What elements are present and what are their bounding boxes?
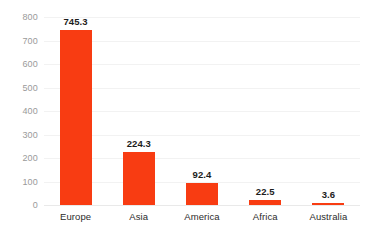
- bar: [123, 152, 155, 205]
- y-axis-tick-label: 300: [8, 131, 38, 140]
- y-axis-tick-label: 500: [8, 84, 38, 93]
- x-axis-category-label: America: [170, 211, 233, 222]
- bar-slot: 22.5: [249, 17, 281, 205]
- y-axis-tick-label: 0: [8, 201, 38, 210]
- bar: [60, 30, 92, 205]
- bar-value-label: 92.4: [193, 169, 212, 180]
- bar-slot: 224.3: [123, 17, 155, 205]
- y-axis-tick-label: 600: [8, 60, 38, 69]
- bar-value-label: 22.5: [256, 186, 275, 197]
- x-axis-category-label: Europe: [44, 211, 107, 222]
- y-axis-tick-label: 400: [8, 107, 38, 116]
- bar-value-label: 3.6: [322, 189, 336, 200]
- bar: [249, 200, 281, 205]
- x-axis-category-label: Asia: [107, 211, 170, 222]
- y-axis-tick-label: 200: [8, 154, 38, 163]
- y-axis-tick-label: 800: [8, 13, 38, 22]
- bar-value-label: 224.3: [127, 138, 151, 149]
- bar-chart: 0100200300400500600700800 745.3224.392.4…: [0, 0, 376, 238]
- bar: [312, 203, 344, 206]
- x-axis-category-labels: EuropeAsiaAmericaAfricaAustralia: [44, 211, 360, 231]
- bars-group: 745.3224.392.422.53.6: [44, 17, 360, 205]
- y-axis-tick-label: 700: [8, 37, 38, 46]
- bar-value-label: 745.3: [63, 16, 87, 27]
- bar-slot: 745.3: [60, 17, 92, 205]
- bar-slot: 3.6: [312, 17, 344, 205]
- x-axis-category-label: Australia: [297, 211, 360, 222]
- y-axis-tick-label: 100: [8, 178, 38, 187]
- bar: [186, 183, 218, 205]
- bar-slot: 92.4: [186, 17, 218, 205]
- gridline: [44, 205, 360, 206]
- x-axis-category-label: Africa: [234, 211, 297, 222]
